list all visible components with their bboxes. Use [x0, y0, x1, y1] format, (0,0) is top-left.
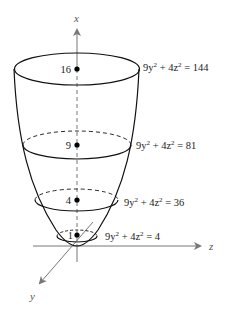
trace-equation-81: 9y2 + 4z2 = 81	[136, 139, 196, 151]
level-point-9	[74, 142, 79, 147]
eq-part: + 4z	[138, 197, 159, 208]
z-axis-label: z	[208, 240, 214, 252]
trace-equation-4: 9y2 + 4z2 = 4	[105, 230, 161, 242]
eq-rhs: = 4	[144, 231, 161, 242]
trace-equation-144: 9y2 + 4z2 = 144	[143, 61, 209, 73]
trace-equation-36: 9y2 + 4z2 = 36	[124, 196, 184, 208]
eq-part: + 4z	[150, 140, 171, 151]
level-label-16: 16	[61, 64, 72, 75]
level-label-9: 9	[66, 140, 71, 151]
eq-part: + 4z	[157, 62, 178, 73]
paraboloid-diagram: z y x 16 9 4 1 9y2 + 4z2 = 144 9y2 + 4z2…	[0, 0, 226, 313]
level-label-4: 4	[66, 195, 72, 206]
level-point-1	[74, 232, 79, 237]
eq-rhs: = 81	[175, 140, 197, 151]
level-point-4	[74, 197, 79, 202]
paraboloid-right-side	[77, 69, 139, 246]
x-axis-label: x	[73, 12, 79, 24]
eq-part: + 4z	[119, 231, 140, 242]
level-label-1: 1	[68, 230, 73, 241]
eq-rhs: = 36	[163, 197, 185, 208]
eq-rhs: = 144	[182, 62, 210, 73]
level-point-16	[74, 66, 79, 71]
y-axis-label: y	[29, 290, 35, 302]
paraboloid-left-side	[14, 69, 77, 246]
